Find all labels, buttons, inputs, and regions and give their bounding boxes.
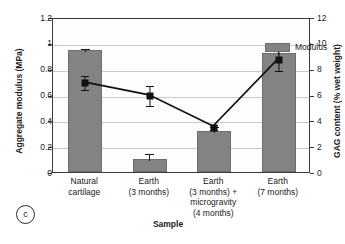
y-tick-mark-right xyxy=(310,173,314,174)
data-point-marker xyxy=(211,124,218,131)
y-tick-mark-right xyxy=(310,70,314,71)
y-tick-mark-right xyxy=(310,18,314,19)
legend: Modulus xyxy=(265,42,327,52)
x-axis-title: Sample xyxy=(140,219,196,229)
y-tick-label-right: 6 xyxy=(317,91,341,100)
figure-panel-c: Aggregate modulus (MPa) GAG content (% w… xyxy=(0,0,345,244)
x-axis-category-label-line: microgravity xyxy=(173,197,253,208)
y-tick-label-right: 12 xyxy=(317,14,341,23)
point-error-bar-cap xyxy=(81,90,89,91)
data-point-marker xyxy=(146,92,153,99)
y-tick-label-left: 0.2 xyxy=(22,143,52,152)
y-tick-mark-right xyxy=(310,147,314,148)
y-tick-label-right: 2 xyxy=(317,143,341,152)
y-tick-label-left: 1 xyxy=(22,39,52,48)
legend-swatch-modulus xyxy=(265,43,290,52)
y-tick-label-right: 8 xyxy=(317,65,341,74)
y-tick-label-left: 0.6 xyxy=(22,91,52,100)
y-tick-label-right: 4 xyxy=(317,117,341,126)
y-tick-label-left: 0.4 xyxy=(22,117,52,126)
y-tick-label-right: 0 xyxy=(317,169,341,178)
y-tick-label-left: 1.2 xyxy=(22,14,52,23)
data-point-marker xyxy=(82,79,89,86)
x-axis-category-label-line: Earth xyxy=(238,176,318,187)
x-axis-category-label-line: (4 months) xyxy=(173,208,253,219)
y-tick-mark-right xyxy=(310,96,314,97)
point-error-bar-cap xyxy=(146,86,154,87)
y-axis-right-title: GAG content (% wet weight) xyxy=(332,11,342,191)
x-axis-category-label-line: (7 months) xyxy=(238,187,318,198)
data-point-marker xyxy=(275,57,282,64)
point-error-bar-cap xyxy=(275,71,283,72)
x-axis-category-label: Earth(7 months) xyxy=(238,176,318,197)
y-tick-label-left: 0.8 xyxy=(22,65,52,74)
panel-tag: c xyxy=(16,205,35,224)
point-error-bar-cap xyxy=(146,106,154,107)
point-error-bar-cap xyxy=(81,76,89,77)
plot-area: Modulus xyxy=(52,18,310,173)
y-tick-mark-right xyxy=(310,121,314,122)
legend-label-modulus: Modulus xyxy=(295,42,327,52)
